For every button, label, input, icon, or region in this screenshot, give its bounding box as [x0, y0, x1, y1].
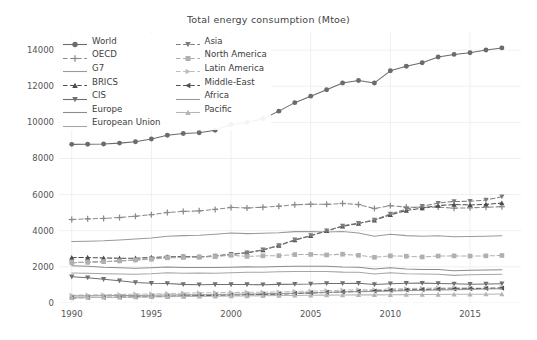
legend-item-brics[interactable]: BRICS — [62, 76, 161, 88]
y-tick-label: 0 — [49, 298, 54, 308]
y-tick-label: 12000 — [27, 81, 54, 91]
legend-swatch-icon — [175, 62, 201, 73]
chart-title: Total energy consumption (Mtoe) — [0, 14, 537, 25]
legend-label: Middle-East — [205, 77, 255, 87]
legend-column-2: AsiaNorth AmericaLatin AmericaMiddle-Eas… — [175, 35, 267, 128]
legend-label: CIS — [92, 90, 106, 100]
legend-label: Pacific — [205, 104, 232, 114]
legend-swatch-icon — [175, 90, 201, 101]
legend-item-africa[interactable]: Africa — [175, 89, 267, 101]
y-tick-label: 10000 — [27, 117, 54, 127]
legend-item-cis[interactable]: CIS — [62, 89, 161, 101]
x-tick-label: 2005 — [300, 309, 322, 319]
series-north-america — [69, 252, 504, 265]
x-tick-label: 2010 — [380, 309, 402, 319]
series-oecd — [69, 200, 505, 222]
legend-label: Africa — [205, 90, 230, 100]
legend-label: OECD — [92, 49, 117, 59]
legend-label: World — [92, 36, 117, 46]
legend-swatch-icon — [175, 103, 201, 114]
legend-label: G7 — [92, 63, 104, 73]
y-tick-label: 4000 — [32, 226, 54, 236]
series-european-union — [72, 272, 502, 276]
legend-item-latin-america[interactable]: Latin America — [175, 62, 267, 74]
legend-label: Asia — [205, 36, 223, 46]
legend-swatch-icon — [62, 76, 88, 87]
legend-item-european-union[interactable]: European Union — [62, 117, 161, 129]
y-axis-tick-labels: 02000400060008000100001200014000 — [0, 32, 54, 303]
legend-swatch-icon — [62, 35, 88, 46]
legend-swatch-icon — [62, 117, 88, 128]
legend-swatch-icon — [175, 76, 201, 87]
legend-item-north-america[interactable]: North America — [175, 49, 267, 61]
legend-item-asia[interactable]: Asia — [175, 35, 267, 47]
x-tick-label: 2015 — [459, 309, 481, 319]
x-tick-label: 1995 — [141, 309, 163, 319]
legend-swatch-icon — [175, 35, 201, 46]
legend-label: Europe — [92, 104, 122, 114]
legend-label: North America — [205, 49, 267, 59]
legend-swatch-icon — [175, 49, 201, 60]
legend-item-world[interactable]: World — [62, 35, 161, 47]
legend-item-g7[interactable]: G7 — [62, 62, 161, 74]
legend-label: Latin America — [205, 63, 264, 73]
x-tick-label: 2000 — [220, 309, 242, 319]
legend-swatch-icon — [62, 90, 88, 101]
chart-legend[interactable]: WorldOECDG7BRICSCISEuropeEuropean UnionA… — [60, 33, 271, 130]
legend-label: BRICS — [92, 77, 118, 87]
y-tick-label: 14000 — [27, 45, 54, 55]
legend-item-oecd[interactable]: OECD — [62, 49, 161, 61]
legend-column-1: WorldOECDG7BRICSCISEuropeEuropean Union — [62, 35, 161, 128]
y-tick-label: 8000 — [32, 153, 54, 163]
chart-figure: Total energy consumption (Mtoe) 02000400… — [0, 0, 537, 340]
legend-item-europe[interactable]: Europe — [62, 103, 161, 115]
legend-swatch-icon — [62, 103, 88, 114]
legend-item-pacific[interactable]: Pacific — [175, 103, 267, 115]
legend-item-middle-east[interactable]: Middle-East — [175, 76, 267, 88]
y-tick-label: 6000 — [32, 190, 54, 200]
legend-swatch-icon — [62, 62, 88, 73]
legend-label: European Union — [92, 117, 161, 127]
legend-swatch-icon — [62, 49, 88, 60]
series-g7 — [72, 231, 502, 241]
x-tick-label: 1990 — [61, 309, 83, 319]
y-tick-label: 2000 — [32, 262, 54, 272]
x-axis-tick-labels: 199019952000200520102015 — [59, 309, 521, 323]
series-cis — [69, 275, 504, 288]
